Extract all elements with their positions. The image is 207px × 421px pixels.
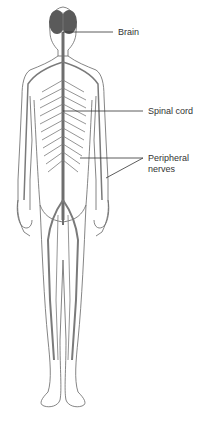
label-peripheral-nerves-line2: nerves <box>148 164 175 174</box>
brain <box>49 10 77 34</box>
label-peripheral-nerves-line1: Peripheral <box>148 153 189 163</box>
label-brain: Brain <box>118 27 139 37</box>
leader-lines <box>63 32 143 178</box>
label-spinal-cord: Spinal cord <box>148 106 193 116</box>
nervous-system-figure <box>0 0 207 421</box>
